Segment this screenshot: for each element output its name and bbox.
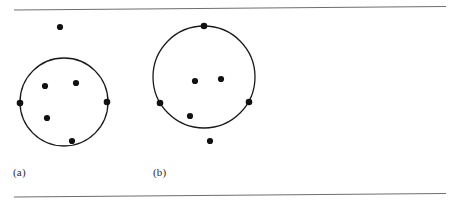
point-a-interior-upper-left	[42, 83, 48, 89]
point-b-outside-bottom	[207, 138, 213, 144]
point-a-interior-upper-right	[73, 80, 79, 86]
point-b-boundary-left	[157, 100, 164, 107]
point-a-boundary-right	[104, 99, 111, 106]
top-rule	[14, 7, 446, 11]
panel-a	[17, 24, 111, 146]
figure-container: (a) (b)	[0, 0, 456, 203]
point-b-boundary-right	[246, 99, 253, 106]
point-a-interior-lower-left	[44, 115, 50, 121]
point-a-interior-bottom	[69, 138, 75, 144]
point-a-outside-top	[57, 24, 63, 30]
point-b-interior-lower	[187, 113, 193, 119]
circle-b	[153, 26, 255, 128]
panel-b	[153, 23, 255, 144]
figure-drawing	[0, 0, 456, 203]
panel-label-b: (b)	[153, 166, 166, 178]
circle-a	[20, 58, 108, 146]
panel-label-a: (a)	[13, 166, 26, 178]
point-b-interior-left	[192, 78, 198, 84]
point-a-boundary-left	[17, 100, 24, 107]
point-b-boundary-top	[201, 23, 208, 30]
point-b-interior-right	[218, 76, 224, 82]
bottom-rule	[14, 194, 446, 198]
